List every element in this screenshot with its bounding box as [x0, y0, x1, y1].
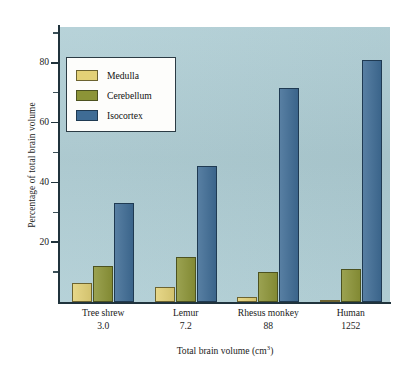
bar-isocortex-1 [197, 166, 217, 302]
bar-sheen [238, 298, 256, 301]
y-tick-label: 60 [23, 116, 49, 127]
y-tick-label-wrap: 60 [16, 116, 49, 128]
bar-cerebellum-0 [93, 266, 113, 302]
x-axis-title-base: Total brain volume (cm [177, 345, 267, 356]
bar-cerebellum-1 [176, 257, 196, 302]
x-category-1: Lemur7.2 [140, 306, 232, 333]
y-tick-minor [53, 271, 58, 272]
x-category-2: Rhesus monkey88 [222, 306, 314, 333]
bar-cerebellum-3 [341, 269, 361, 302]
bar-sheen [363, 61, 381, 301]
chart-legend: MedullaCerebellumIsocortex [66, 57, 176, 132]
legend-swatch-cerebellum [76, 90, 98, 101]
bar-sheen [342, 270, 360, 301]
y-tick-minor [53, 32, 58, 33]
y-tick-label-wrap: 40 [16, 176, 49, 188]
x-axis-title-tail: ) [270, 345, 273, 356]
x-category-name: Rhesus monkey [222, 306, 314, 319]
x-category-value: 88 [222, 319, 314, 333]
x-category-value: 3.0 [57, 319, 149, 333]
x-category-0: Tree shrew3.0 [57, 306, 149, 333]
bar-medulla-1 [155, 287, 175, 302]
y-tick-major [51, 62, 58, 64]
x-axis-title: Total brain volume (cm3) [60, 344, 390, 356]
bar-cerebellum-2 [258, 272, 278, 302]
bar-sheen [198, 167, 216, 301]
legend-swatch-medulla [76, 70, 98, 81]
x-category-name: Lemur [140, 306, 232, 319]
legend-item-medulla: Medulla [67, 65, 175, 85]
bar-sheen [177, 258, 195, 301]
y-tick-label: 40 [23, 176, 49, 187]
bar-chart-figure: Percentage of total brain volume 2040608… [0, 0, 413, 371]
y-axis-title: Percentage of total brain volume [27, 45, 37, 285]
bar-sheen [280, 89, 298, 301]
x-category-3: Human1252 [305, 306, 397, 333]
bar-sheen [115, 204, 133, 301]
y-tick-minor [53, 92, 58, 93]
x-category-value: 1252 [305, 319, 397, 333]
y-tick-major [51, 122, 58, 124]
bar-sheen [73, 284, 91, 301]
y-tick-minor [53, 152, 58, 153]
legend-label: Cerebellum [107, 90, 152, 101]
y-tick-label-wrap: 80 [16, 56, 49, 68]
legend-item-cerebellum: Cerebellum [67, 85, 175, 105]
y-axis-line [58, 25, 60, 304]
bar-isocortex-0 [114, 203, 134, 302]
y-tick-label: 20 [23, 236, 49, 247]
bar-isocortex-2 [279, 88, 299, 302]
legend-label: Medulla [107, 70, 139, 81]
y-tick-major [51, 241, 58, 243]
legend-label: Isocortex [107, 110, 143, 121]
bar-sheen [94, 267, 112, 301]
x-category-value: 7.2 [140, 319, 232, 333]
x-category-name: Human [305, 306, 397, 319]
bar-sheen [156, 288, 174, 301]
x-axis-line [58, 302, 391, 304]
y-tick-major [51, 182, 58, 184]
y-tick-label: 80 [23, 56, 49, 67]
y-tick-minor [53, 212, 58, 213]
legend-item-isocortex: Isocortex [67, 105, 175, 125]
y-tick-label-wrap: 20 [16, 236, 49, 248]
legend-swatch-isocortex [76, 110, 98, 121]
bar-isocortex-3 [362, 60, 382, 302]
x-category-name: Tree shrew [57, 306, 149, 319]
bar-sheen [259, 273, 277, 301]
bar-medulla-0 [72, 283, 92, 302]
